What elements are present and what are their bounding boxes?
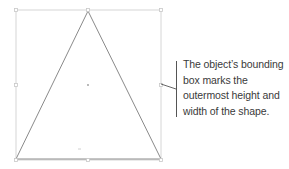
- handle-middle-left[interactable]: [15, 84, 18, 87]
- handle-top-center[interactable]: [87, 9, 90, 12]
- handle-bottom-right[interactable]: [160, 159, 163, 162]
- callout-line-3: outermost height and: [183, 88, 289, 104]
- callout-line-2: box marks the: [183, 73, 289, 89]
- handle-bottom-center[interactable]: [87, 159, 90, 162]
- handle-top-left[interactable]: [15, 9, 18, 12]
- callout-line-4: width of the shape.: [183, 104, 289, 120]
- handle-top-right[interactable]: [160, 9, 163, 12]
- center-point: [87, 84, 89, 86]
- callout-line-1: The object’s bounding: [183, 57, 289, 73]
- callout-text: The object’s bounding box marks the oute…: [183, 57, 289, 119]
- callout-leader-line: [161, 84, 176, 89]
- handle-bottom-left[interactable]: [15, 159, 18, 162]
